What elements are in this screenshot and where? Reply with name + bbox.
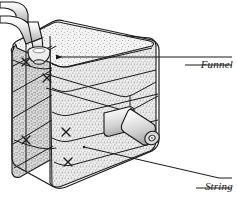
illustration-svg xyxy=(0,0,237,203)
funnel-inner-opening xyxy=(33,48,45,52)
label-funnel: Funnel xyxy=(201,58,233,70)
figure-container: Funnel String xyxy=(0,0,237,203)
funnel-base xyxy=(34,60,45,64)
label-string: String xyxy=(205,180,233,192)
string-leader-anchor-dot xyxy=(83,146,85,148)
nozzle-orifice-core xyxy=(151,137,153,139)
